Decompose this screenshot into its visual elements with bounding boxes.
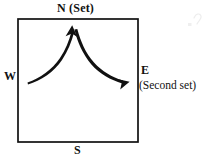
scan-artifact: [188, 14, 201, 26]
label-south: S: [74, 144, 81, 157]
compass-diagram: N (Set) W S E (Second set): [0, 0, 215, 163]
label-north: N (Set): [57, 2, 94, 15]
north-to-east-arrow: [74, 29, 129, 90]
label-east-secondary: (Second set): [139, 79, 196, 92]
label-east-group: E (Second set): [141, 64, 196, 92]
label-west: W: [4, 70, 16, 83]
west-to-north-arrow: [28, 25, 78, 84]
label-east: E: [141, 64, 196, 77]
